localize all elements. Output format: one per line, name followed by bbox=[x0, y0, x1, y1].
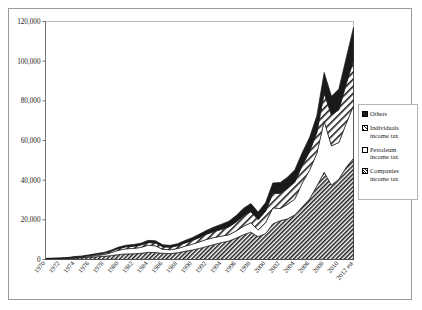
y-tick-label: 20,000 bbox=[21, 216, 41, 224]
x-tick-label: 2004 bbox=[282, 259, 296, 274]
x-tick-label: 2002 bbox=[267, 260, 281, 275]
y-tick-label: 60,000 bbox=[21, 137, 41, 145]
x-tick-label: 2008 bbox=[311, 259, 325, 274]
legend-label-line1: Petroleum bbox=[370, 146, 396, 153]
legend-item-petroleum: Petroleum income tax bbox=[362, 146, 415, 161]
x-tick-label: 1990 bbox=[179, 259, 193, 274]
x-tick-label: 1988 bbox=[164, 259, 178, 274]
legend-item-others: Others bbox=[362, 110, 415, 118]
y-tick-label: 120,000 bbox=[17, 18, 41, 26]
legend-label-petroleum: Petroleum income tax bbox=[370, 146, 398, 161]
x-tick-label: 1986 bbox=[150, 259, 164, 274]
y-tick-label: 80,000 bbox=[21, 97, 41, 105]
x-tick-label: 1978 bbox=[91, 259, 105, 274]
chart-legend: Others Individuals income tax Petroleum … bbox=[358, 104, 418, 200]
legend-label-individuals: Individuals income tax bbox=[370, 124, 399, 139]
x-tick-label: 2000 bbox=[252, 259, 266, 274]
legend-label-others: Others bbox=[370, 110, 387, 118]
x-tick-label: 1980 bbox=[106, 259, 120, 274]
x-tick-label: 1992 bbox=[194, 260, 208, 275]
x-tick-label: 1994 bbox=[208, 259, 222, 274]
x-tick-label: 1982 bbox=[120, 260, 134, 275]
x-tick-label: 1998 bbox=[238, 259, 252, 274]
legend-swatch-others bbox=[362, 111, 368, 117]
y-axis-labels: 020,00040,00060,00080,000100,000120,000 bbox=[17, 18, 41, 264]
legend-label-line2: income tax bbox=[370, 153, 398, 160]
legend-label-companies: Companies income tax bbox=[370, 167, 399, 182]
legend-label-line2: income tax bbox=[370, 132, 398, 139]
x-tick-label: 1976 bbox=[76, 259, 90, 274]
y-tick-label: 100,000 bbox=[17, 58, 41, 66]
legend-label-line1: Companies bbox=[370, 167, 399, 174]
legend-item-companies: Companies income tax bbox=[362, 167, 415, 182]
x-tick-label: 1970 bbox=[32, 259, 46, 274]
legend-swatch-companies bbox=[362, 168, 368, 174]
legend-label-line1: Others bbox=[370, 110, 387, 117]
legend-label-line2: income tax bbox=[370, 175, 398, 182]
x-tick-label: 1974 bbox=[62, 259, 76, 274]
x-axis-labels: 1970197219741976197819801982198419861988… bbox=[32, 259, 354, 281]
y-tick-label: 40,000 bbox=[21, 177, 41, 185]
x-tick-label: 1984 bbox=[135, 259, 149, 274]
legend-item-individuals: Individuals income tax bbox=[362, 124, 415, 139]
legend-label-line1: Individuals bbox=[370, 124, 399, 131]
x-tick-label: 2006 bbox=[296, 259, 310, 274]
x-tick-label: 1972 bbox=[47, 260, 61, 275]
legend-swatch-petroleum bbox=[362, 147, 368, 153]
legend-swatch-individuals bbox=[362, 125, 368, 131]
x-tick-label: 1996 bbox=[223, 259, 237, 274]
